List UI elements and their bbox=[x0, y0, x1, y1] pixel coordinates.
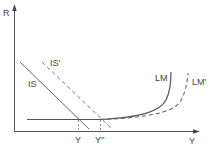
lm-curve bbox=[27, 72, 171, 120]
lm-curve-label: LM bbox=[155, 73, 168, 83]
y-axis-label: R bbox=[3, 8, 10, 18]
is-curve-label: IS bbox=[28, 79, 37, 89]
y-double-prime-marker-label: Y'' bbox=[95, 135, 105, 145]
lm-prime-curve-label: LM' bbox=[192, 77, 207, 87]
x-axis-label: Y bbox=[189, 136, 195, 146]
y-marker-label: Y bbox=[75, 135, 81, 145]
y-axis-arrow-icon bbox=[12, 4, 16, 11]
lm-prime-curve bbox=[100, 73, 188, 120]
is-prime-curve-label: IS' bbox=[50, 58, 61, 68]
x-axis-arrow-icon bbox=[193, 129, 200, 133]
axes bbox=[14, 8, 196, 132]
is-lm-diagram: R Y IS IS' LM LM' Y Y'' bbox=[0, 0, 210, 150]
